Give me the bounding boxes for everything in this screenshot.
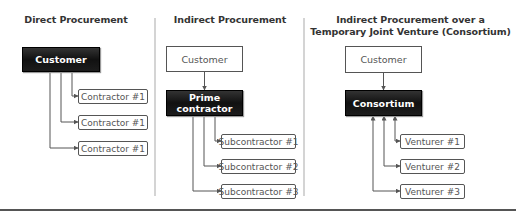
- contractor-box: Contractor #1: [78, 141, 148, 156]
- contractor-box: Contractor #1: [78, 115, 148, 130]
- customer-box: Customer: [166, 46, 243, 72]
- venturer-box: Venturer #1: [400, 134, 465, 149]
- consortium-label: Consortium: [353, 98, 415, 109]
- panel-title-direct: Direct Procurement: [0, 14, 152, 26]
- customer-box: Customer: [22, 47, 100, 72]
- contractor-box: Contractor #1: [78, 89, 148, 104]
- customer-label: Customer: [360, 54, 406, 65]
- subcontractor-box: Subcontractor #1: [221, 134, 296, 149]
- panel-title-line2: Temporary Joint Venture (Consortium): [305, 26, 516, 38]
- subcontractor-box: Subcontractor #2: [221, 159, 296, 174]
- panel-title-indirect: Indirect Procurement: [156, 14, 304, 26]
- prime-contractor-box: Prime contractor: [166, 90, 243, 116]
- customer-label: Customer: [35, 54, 87, 65]
- prime-contractor-label-line2: contractor: [177, 103, 233, 114]
- panel-title-consortium: Indirect Procurement over a Temporary Jo…: [305, 14, 516, 38]
- panel-divider: [303, 18, 305, 196]
- venturer-box: Venturer #2: [400, 159, 465, 174]
- bottom-rule: [0, 209, 516, 211]
- panel-divider: [154, 18, 156, 196]
- consortium-box: Consortium: [345, 90, 422, 116]
- venturer-box: Venturer #3: [400, 184, 465, 199]
- customer-label: Customer: [181, 54, 227, 65]
- prime-contractor-label-line1: Prime: [189, 92, 220, 103]
- subcontractor-box: Subcontractor #3: [221, 184, 296, 199]
- customer-box: Customer: [345, 46, 422, 73]
- panel-title-line1: Indirect Procurement over a: [305, 14, 516, 26]
